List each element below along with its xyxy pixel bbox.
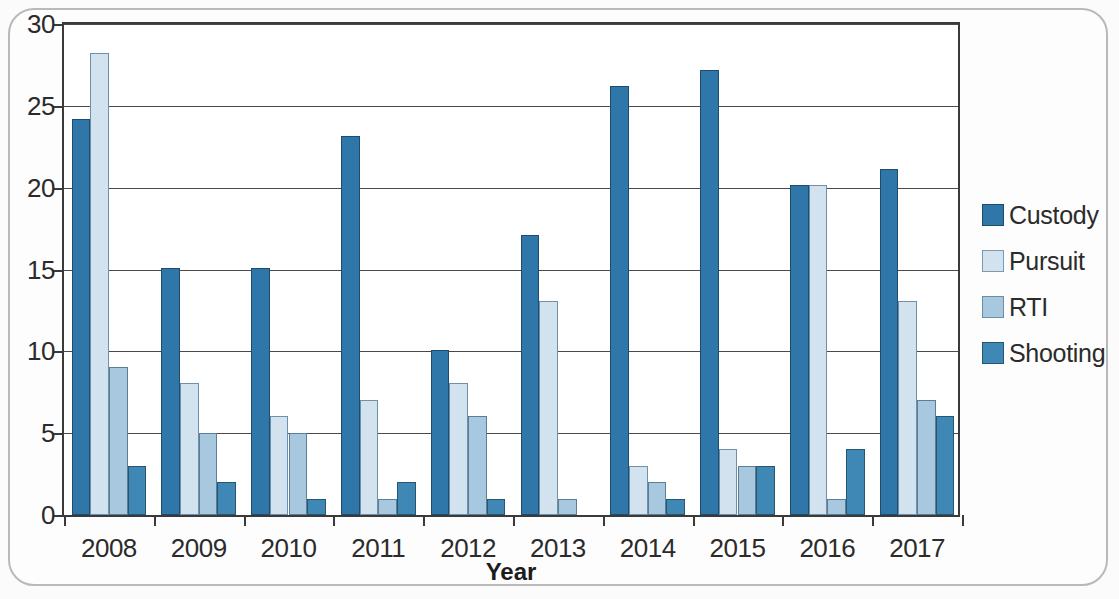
bar-pursuit-2010: [270, 416, 289, 515]
plot-area: 051015202530 200820092010201120122013201…: [62, 22, 960, 517]
bar-pursuit-2015: [719, 449, 738, 515]
y-tick-label: 0: [41, 500, 55, 531]
x-tick-mark: [962, 515, 964, 526]
legend-label: Shooting: [1009, 339, 1105, 368]
bar-custody-2011: [341, 136, 360, 516]
bar-custody-2008: [72, 119, 91, 515]
x-tick-mark: [693, 515, 695, 526]
bar-rti-2009: [199, 433, 218, 516]
bar-custody-2009: [161, 268, 180, 516]
bar-shooting-2015: [756, 466, 775, 516]
legend-label: RTI: [1009, 293, 1048, 322]
x-tick-mark: [513, 515, 515, 526]
bar-custody-2013: [521, 235, 540, 516]
chart-figure: 051015202530 200820092010201120122013201…: [0, 0, 1119, 599]
legend-swatch-icon: [982, 296, 1004, 318]
x-tick-mark: [782, 515, 784, 526]
bar-shooting-2017: [936, 416, 955, 515]
x-tick-mark: [244, 515, 246, 526]
bar-rti-2011: [378, 499, 397, 516]
bar-shooting-2009: [217, 482, 236, 515]
bar-rti-2017: [917, 400, 936, 516]
bar-custody-2014: [610, 86, 629, 515]
y-tick-label: 30: [27, 9, 55, 40]
x-axis-title: Year: [62, 558, 960, 586]
bar-rti-2008: [109, 367, 128, 516]
legend-item-custody[interactable]: Custody: [982, 192, 1112, 238]
bar-pursuit-2017: [898, 301, 917, 516]
plot-wrapper: 051015202530 200820092010201120122013201…: [62, 22, 960, 517]
bar-rti-2014: [648, 482, 667, 515]
y-tick-label: 5: [41, 418, 55, 449]
y-tick-label: 15: [27, 254, 55, 285]
x-tick-mark: [154, 515, 156, 526]
bar-pursuit-2008: [90, 53, 109, 515]
legend-label: Pursuit: [1009, 247, 1085, 276]
bar-shooting-2011: [397, 482, 416, 515]
bar-pursuit-2011: [360, 400, 379, 516]
legend-item-pursuit[interactable]: Pursuit: [982, 238, 1112, 284]
bar-pursuit-2014: [629, 466, 648, 516]
bar-shooting-2012: [487, 499, 506, 516]
y-tick-label: 20: [27, 172, 55, 203]
bar-rti-2015: [738, 466, 757, 516]
bar-pursuit-2013: [539, 301, 558, 516]
legend-swatch-icon: [982, 342, 1004, 364]
x-tick-mark: [333, 515, 335, 526]
chart-legend: CustodyPursuitRTIShooting: [982, 192, 1112, 376]
bar-shooting-2016: [846, 449, 865, 515]
y-tick-label: 25: [27, 90, 55, 121]
bar-custody-2016: [790, 185, 809, 515]
bar-shooting-2014: [666, 499, 685, 516]
bar-pursuit-2016: [809, 185, 828, 515]
gridline: [64, 106, 958, 107]
bar-custody-2010: [251, 268, 270, 516]
legend-swatch-icon: [982, 250, 1004, 272]
gridline: [64, 24, 958, 25]
bar-pursuit-2012: [449, 383, 468, 515]
bar-rti-2010: [289, 433, 308, 516]
x-tick-mark: [603, 515, 605, 526]
bar-rti-2013: [558, 499, 577, 516]
legend-label: Custody: [1009, 201, 1099, 230]
bar-rti-2016: [827, 499, 846, 516]
x-tick-mark: [872, 515, 874, 526]
bar-custody-2015: [700, 70, 719, 516]
bar-shooting-2008: [128, 466, 147, 516]
bar-rti-2012: [468, 416, 487, 515]
bar-custody-2012: [431, 350, 450, 515]
bar-shooting-2010: [307, 499, 326, 516]
bar-custody-2017: [880, 169, 899, 516]
bar-pursuit-2009: [180, 383, 199, 515]
x-tick-mark: [64, 515, 66, 526]
x-tick-mark: [423, 515, 425, 526]
legend-item-shooting[interactable]: Shooting: [982, 330, 1112, 376]
y-tick-label: 10: [27, 336, 55, 367]
legend-swatch-icon: [982, 204, 1004, 226]
legend-item-rti[interactable]: RTI: [982, 284, 1112, 330]
